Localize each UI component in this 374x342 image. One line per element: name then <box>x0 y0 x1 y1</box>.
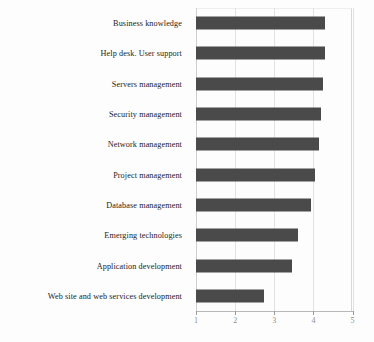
bar <box>196 259 292 272</box>
bar <box>196 138 319 151</box>
category-label: Emerging technologies <box>104 231 182 240</box>
tick-mark <box>313 311 314 315</box>
category-label: Servers management <box>112 79 182 88</box>
x-tick-label: 4 <box>305 316 321 326</box>
tick-mark <box>196 311 197 315</box>
bar-row: Application development <box>0 250 374 280</box>
x-tick-label: 2 <box>227 316 243 326</box>
bar-row: Web site and web services development <box>0 281 374 311</box>
bar-row: Help desk. User support <box>0 38 374 68</box>
bar-row: Project management <box>0 160 374 190</box>
bar <box>196 77 323 90</box>
bar <box>196 289 264 302</box>
x-tick-label: 1 <box>188 316 204 326</box>
tick-mark <box>274 311 275 315</box>
bar-row: Emerging technologies <box>0 220 374 250</box>
bar <box>196 47 325 60</box>
bar-row: Database management <box>0 190 374 220</box>
tick-mark <box>353 311 354 315</box>
category-label: Project management <box>113 170 182 179</box>
category-label: Web site and web services development <box>48 291 182 300</box>
bar-row: Business knowledge <box>0 8 374 38</box>
tick-mark <box>235 311 236 315</box>
category-label: Business knowledge <box>113 19 182 28</box>
bar <box>196 198 311 211</box>
x-tick-label: 3 <box>266 316 282 326</box>
bar-row: Network management <box>0 129 374 159</box>
bar <box>196 168 315 181</box>
category-label: Help desk. User support <box>101 49 182 58</box>
bar <box>196 108 321 121</box>
bar <box>196 229 298 242</box>
category-label: Security management <box>109 110 182 119</box>
bar-chart: Business knowledgeHelp desk. User suppor… <box>0 0 374 342</box>
bar-row: Servers management <box>0 69 374 99</box>
bar-row: Security management <box>0 99 374 129</box>
bar <box>196 17 325 30</box>
x-tick-label: 5 <box>345 316 361 326</box>
category-label: Database management <box>106 200 182 209</box>
category-label: Network management <box>108 140 182 149</box>
category-label: Application development <box>97 261 182 270</box>
